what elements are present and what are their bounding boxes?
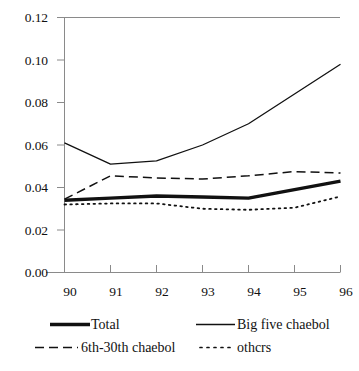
y-tick-label-0-10: 0.10: [2, 54, 48, 68]
x-tick-label-94: 94: [239, 285, 269, 299]
y-tick-label-0-06: 0.06: [2, 139, 48, 153]
x-tick-label-96: 96: [331, 285, 359, 299]
legend-label-big-five-chaebol: Big five chaebol: [237, 318, 330, 332]
series-line-big-five-chaebol: [65, 64, 341, 164]
series-line-6th-30th-chaebol: [65, 172, 341, 200]
legend-label-othcrs: othcrs: [237, 341, 271, 355]
y-tick-label-0-12: 0.12: [2, 11, 48, 25]
y-tick-label-0-04: 0.04: [2, 181, 48, 195]
series-line-total: [65, 181, 341, 200]
x-tick-label-93: 93: [193, 285, 223, 299]
x-tick-marks: [65, 265, 341, 273]
x-tick-label-91: 91: [101, 285, 131, 299]
x-tick-label-95: 95: [285, 285, 315, 299]
y-tick-label-0-02: 0.02: [2, 224, 48, 238]
x-tick-label-90: 90: [55, 285, 85, 299]
y-tick-marks: [57, 18, 65, 273]
x-tick-label-92: 92: [147, 285, 177, 299]
series-layer: [65, 64, 341, 210]
y-tick-label-0-08: 0.08: [2, 96, 48, 110]
legend-label-total: Total: [91, 318, 120, 332]
chart-figure: 0.12 0.10 0.08 0.06 0.04 0.02 0.00 90 91…: [0, 0, 359, 371]
legend-label-6th-30th-chaebol: 6th-30th chaebol: [81, 341, 175, 355]
y-tick-label-0-00: 0.00: [2, 266, 48, 280]
